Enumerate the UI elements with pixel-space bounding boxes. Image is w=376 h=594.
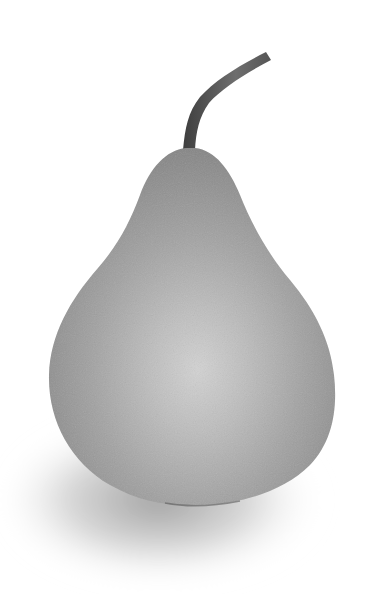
pear-photo [0,0,376,594]
pear-stem [183,52,271,150]
pear-illustration [0,0,376,594]
